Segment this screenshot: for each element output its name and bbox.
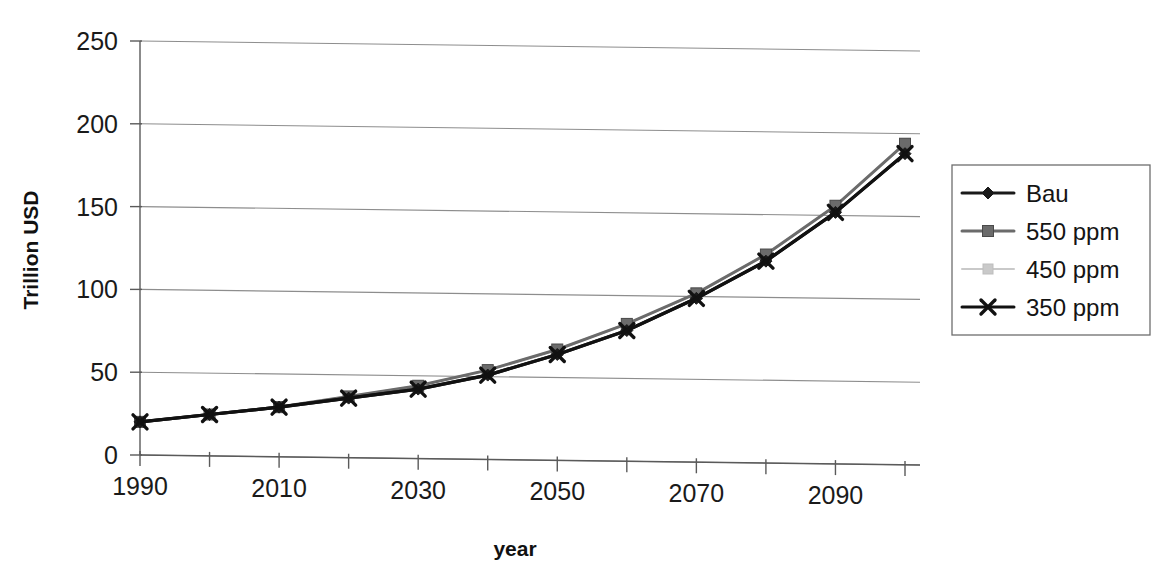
y-tick-label-50: 50 bbox=[90, 358, 118, 386]
x-tick-label-2030: 2030 bbox=[390, 476, 446, 504]
data-point-marker bbox=[983, 264, 993, 274]
legend-label: 350 ppm bbox=[1026, 294, 1119, 321]
line-chart: 050100150200250 199020102030205020702090… bbox=[0, 0, 1172, 575]
y-tick-label-0: 0 bbox=[104, 441, 118, 469]
y-tick-label-200: 200 bbox=[76, 110, 118, 138]
y-tick-label-250: 250 bbox=[76, 27, 118, 55]
y-tick-label-100: 100 bbox=[76, 275, 118, 303]
y-tick-label-150: 150 bbox=[76, 193, 118, 221]
y-axis-title: Trillion USD bbox=[19, 190, 42, 309]
x-tick-label-1990: 1990 bbox=[112, 472, 168, 500]
legend: Bau550 ppm450 ppm350 ppm bbox=[952, 165, 1150, 335]
x-tick-label-2010: 2010 bbox=[251, 474, 307, 502]
x-tick-label-2050: 2050 bbox=[529, 477, 585, 505]
data-point-marker bbox=[983, 226, 994, 237]
legend-label: 450 ppm bbox=[1026, 256, 1119, 283]
x-axis-title: year bbox=[493, 537, 536, 560]
x-tick-label-2090: 2090 bbox=[808, 481, 864, 509]
legend-label: 550 ppm bbox=[1026, 218, 1119, 245]
x-tick-label-2070: 2070 bbox=[669, 479, 725, 507]
chart-container: 050100150200250 199020102030205020702090… bbox=[0, 0, 1172, 575]
legend-label: Bau bbox=[1026, 180, 1069, 207]
